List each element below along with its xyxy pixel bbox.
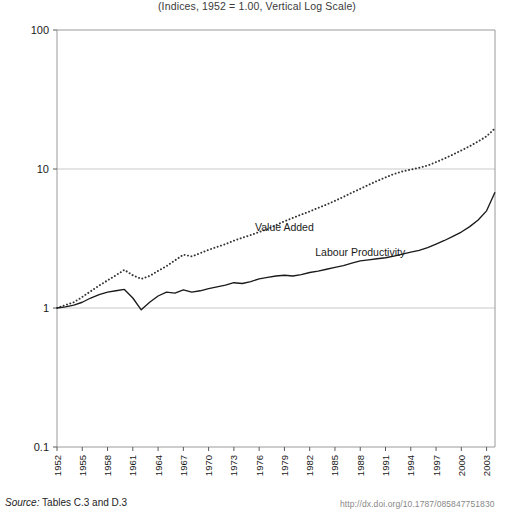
series-line: [57, 128, 495, 308]
source-label: Source:: [5, 497, 39, 508]
x-axis-labels: 1952195519581961196419671970197319761979…: [52, 455, 493, 476]
x-tick-label: 1997: [431, 455, 442, 476]
chart-plot: 1001010.1 195219551958196119641967197019…: [0, 0, 514, 495]
x-tick-label: 1982: [304, 455, 315, 476]
x-tick-label: 1955: [77, 455, 88, 476]
x-tick-label: 1988: [355, 455, 366, 476]
x-tick-label: 1964: [153, 455, 164, 476]
gridlines: [57, 169, 495, 308]
y-tick-label: 100: [31, 24, 49, 36]
x-tick-label: 1985: [329, 455, 340, 476]
x-tick-label: 2003: [481, 455, 492, 476]
figure-container: (Indices, 1952 = 1.00, Vertical Log Scal…: [0, 0, 514, 521]
y-axis-labels: 1001010.1: [31, 24, 49, 453]
x-tick-label: 1976: [254, 455, 265, 476]
x-tick-label: 1979: [279, 455, 290, 476]
axis-ticks: [53, 30, 487, 451]
series-annotations: Value AddedLabour Productivity: [255, 221, 406, 259]
series-line: [57, 192, 495, 310]
y-tick-label: 0.1: [34, 441, 49, 453]
series-label: Value Added: [255, 221, 314, 233]
data-series: [57, 128, 495, 309]
x-tick-label: 2000: [456, 455, 467, 476]
x-tick-label: 1952: [52, 455, 63, 476]
y-tick-label: 10: [37, 163, 49, 175]
doi-link[interactable]: http://dx.doi.org/10.1787/085847751830: [340, 499, 495, 509]
x-tick-label: 1973: [228, 455, 239, 476]
series-label: Labour Productivity: [315, 246, 406, 258]
x-tick-label: 1970: [203, 455, 214, 476]
y-tick-label: 1: [43, 302, 49, 314]
source-note: Source: Tables C.3 and D.3: [5, 497, 127, 508]
x-tick-label: 1958: [102, 455, 113, 476]
x-tick-label: 1961: [127, 455, 138, 476]
axis-frame: [57, 30, 495, 447]
x-tick-label: 1967: [178, 455, 189, 476]
x-tick-label: 1991: [380, 455, 391, 476]
x-tick-label: 1994: [405, 455, 416, 476]
source-value: Tables C.3 and D.3: [39, 497, 127, 508]
